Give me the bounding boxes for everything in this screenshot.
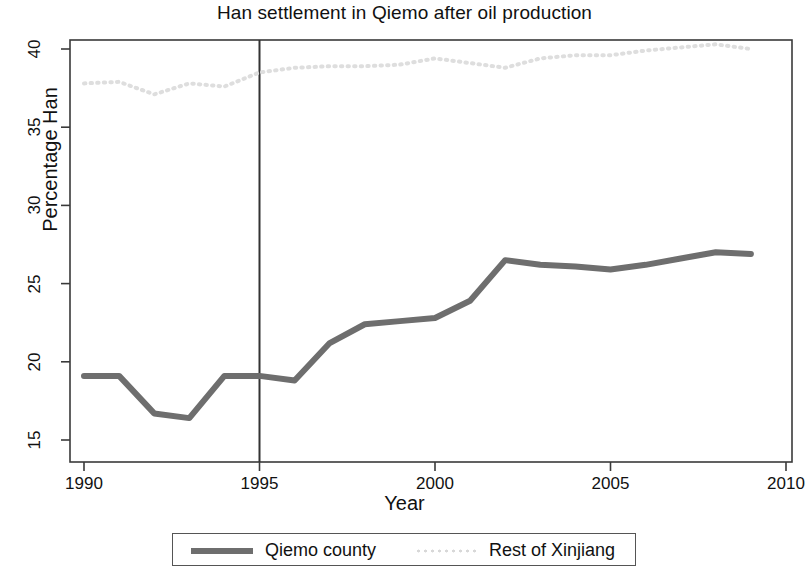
y-axis-ticks: [61, 49, 70, 440]
x-tick-label: 1995: [220, 474, 300, 494]
legend-swatch-solid-line-icon: [191, 548, 253, 554]
legend-entry-rest-of-xinjiang: Rest of Xinjiang: [415, 534, 615, 567]
chart-figure: Han settlement in Qiemo after oil produc…: [0, 0, 809, 574]
series-line-rest-of-xinjiang: [84, 44, 751, 94]
x-axis-ticks: [84, 462, 786, 471]
x-tick-label: 1990: [44, 474, 124, 494]
x-tick-label: 2010: [746, 474, 809, 494]
y-axis-label: Percentage Han: [39, 50, 62, 270]
legend-label-qiemo: Qiemo county: [265, 540, 376, 561]
y-tick-label: 35: [12, 104, 58, 150]
y-tick-label: 15: [12, 417, 58, 463]
y-tick-label: 40: [12, 26, 58, 72]
legend-label-rest-of-xinjiang: Rest of Xinjiang: [489, 540, 615, 561]
y-tick-label: 30: [12, 182, 58, 228]
y-tick-label: 20: [12, 339, 58, 385]
chart-legend: Qiemo county Rest of Xinjiang: [172, 533, 636, 566]
x-axis-label: Year: [0, 492, 809, 515]
data-series-layer: [84, 44, 751, 418]
legend-entry-qiemo: Qiemo county: [191, 534, 376, 567]
legend-swatch-dotted-line-icon: [415, 549, 477, 553]
y-tick-label: 25: [12, 261, 58, 307]
x-tick-label: 2005: [571, 474, 651, 494]
series-line-qiemo-county: [84, 252, 751, 418]
plot-frame: [70, 40, 792, 462]
x-tick-label: 2000: [395, 474, 475, 494]
